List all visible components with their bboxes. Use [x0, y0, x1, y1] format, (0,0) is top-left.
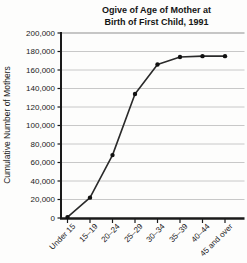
plot-area [0, 0, 247, 263]
data-point-0 [65, 215, 69, 219]
y-tick-label: 80,000 [0, 140, 55, 149]
y-tick-label: 120,000 [0, 103, 55, 112]
y-tick-label: 0 [0, 214, 55, 223]
data-point-5 [178, 55, 182, 59]
y-tick-label: 100,000 [0, 121, 55, 130]
data-point-4 [155, 62, 159, 66]
y-tick-label: 40,000 [0, 177, 55, 186]
y-tick-label: 20,000 [0, 195, 55, 204]
y-tick-label: 180,000 [0, 47, 55, 56]
ogive-chart: Ogive of Age of Mother at Birth of First… [0, 0, 247, 263]
ogive-line [68, 56, 226, 217]
y-tick-label: 200,000 [0, 29, 55, 38]
data-point-1 [88, 195, 92, 199]
y-tick-label: 160,000 [0, 66, 55, 75]
y-tick-label: 140,000 [0, 84, 55, 93]
data-point-2 [110, 153, 114, 157]
data-point-6 [200, 54, 204, 58]
data-point-3 [133, 92, 137, 96]
data-point-7 [223, 54, 227, 58]
y-tick-label: 60,000 [0, 158, 55, 167]
